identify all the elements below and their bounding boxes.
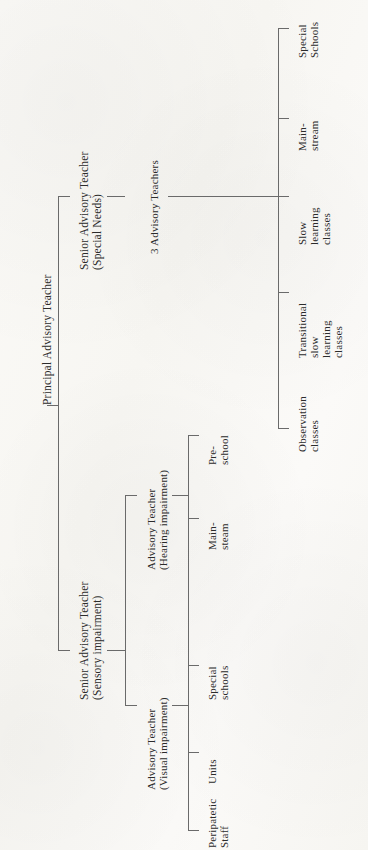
leaf-tick-observation-classes	[278, 428, 289, 429]
special-schools-line2: Schools	[308, 22, 320, 58]
main-steam-line2: steam	[218, 522, 230, 550]
leaf-label-slow-learning-classes: Slow learning classes	[296, 207, 332, 245]
special-needs-stem-line	[107, 196, 125, 197]
peripatetic-staff-line2: Staff	[218, 799, 230, 848]
node-label-principal-advisory-teacher: Principal Advisory Teacher	[41, 274, 54, 405]
special-schools-line1: Special	[296, 22, 308, 58]
hearing-special-schools-line2: schools	[218, 666, 230, 700]
level3-spine-line	[125, 495, 126, 705]
leaf-tick-mainstream	[278, 118, 289, 119]
leaf-label-observation-classes: Observation classes	[296, 396, 320, 452]
main-steam-line1: Main-	[206, 522, 218, 550]
node-label-3-advisory-teachers: 3 Advisory Teachers	[148, 160, 160, 254]
leaf-label-transitional-slow-learning: Transitional slow learning classes	[296, 303, 344, 358]
transitional-line1: Transitional	[296, 303, 308, 358]
node-label-advisory-teacher-hearing: Advisory Teacher (Hearing impairment)	[145, 470, 169, 570]
special-needs-leaf-spine	[278, 28, 279, 428]
observation-line1: Observation	[296, 396, 308, 452]
sensory-line1: Senior Advisory Teacher	[78, 581, 91, 700]
leaf-tick-units	[188, 752, 199, 753]
hearing-leaf-spine	[188, 435, 189, 665]
leaf-tick-hearing-special-schools	[188, 665, 199, 666]
level3-tick-hearing	[125, 495, 137, 496]
slow-learning-line1: Slow	[296, 207, 308, 245]
visual-leaf-spine	[188, 665, 189, 830]
node-label-advisory-teacher-visual: Advisory Teacher (Visual impairment)	[145, 697, 169, 790]
root-stem-line	[47, 405, 58, 406]
special-needs-line1: Senior Advisory Teacher	[78, 151, 91, 270]
leaf-tick-peripatetic-staff	[188, 830, 199, 831]
sensory-stem-line	[107, 650, 125, 651]
transitional-line2: slow	[308, 303, 320, 358]
visual-line2: (Visual impairment)	[157, 697, 169, 790]
principal-advisory-teacher-text: Principal Advisory Teacher	[41, 274, 54, 405]
leaf-label-hearing-special-schools: Special schools	[206, 666, 230, 700]
leaf-tick-transitional-slow-learning	[278, 292, 289, 293]
leaf-label-main-steam: Main- steam	[206, 522, 230, 550]
level2-spine-line	[58, 196, 59, 651]
level2-tick-sensory	[58, 650, 70, 651]
transitional-line3: learning	[320, 303, 332, 358]
hearing-stem-line	[172, 495, 188, 496]
hearing-line1: Advisory Teacher	[145, 470, 157, 570]
pre-school-line2: school	[218, 435, 230, 465]
visual-stem-line	[172, 705, 188, 706]
leaf-label-mainstream: Main- stream	[296, 120, 320, 151]
hearing-special-schools-line1: Special	[206, 666, 218, 700]
mainstream-line2: stream	[308, 120, 320, 151]
leaf-label-special-schools: Special Schools	[296, 22, 320, 58]
three-advisory-teachers-stem-line	[168, 196, 278, 197]
visual-line1: Advisory Teacher	[145, 697, 157, 790]
sensory-line2: (Sensory impairment)	[91, 581, 104, 700]
node-label-senior-advisory-teacher-sensory: Senior Advisory Teacher (Sensory impairm…	[78, 581, 103, 700]
leaf-label-units: Units	[206, 759, 218, 784]
mainstream-line1: Main-	[296, 120, 308, 151]
leaf-label-peripatetic-staff: Peripatetic Staff	[206, 799, 230, 848]
hearing-line2: (Hearing impairment)	[157, 470, 169, 570]
three-advisory-teachers-text: 3 Advisory Teachers	[148, 160, 160, 254]
leaf-label-pre-school: Pre- school	[206, 435, 230, 465]
observation-line2: classes	[308, 396, 320, 452]
slow-learning-line2: learning	[308, 207, 320, 245]
node-label-senior-advisory-teacher-special-needs: Senior Advisory Teacher (Special Needs)	[78, 151, 103, 270]
slow-learning-line3: classes	[320, 207, 332, 245]
leaf-tick-main-steam	[188, 518, 199, 519]
level2-tick-special-needs	[58, 196, 70, 197]
leaf-tick-special-schools	[278, 28, 289, 29]
transitional-line4: classes	[332, 303, 344, 358]
units-line1: Units	[206, 759, 218, 784]
pre-school-line1: Pre-	[206, 435, 218, 465]
special-needs-line2: (Special Needs)	[91, 151, 104, 270]
leaf-tick-slow-learning-classes	[278, 196, 289, 197]
org-chart-figure: Principal Advisory Teacher Senior Adviso…	[0, 0, 368, 850]
leaf-tick-pre-school	[188, 435, 199, 436]
peripatetic-staff-line1: Peripatetic	[206, 799, 218, 848]
level3-tick-visual	[125, 705, 137, 706]
